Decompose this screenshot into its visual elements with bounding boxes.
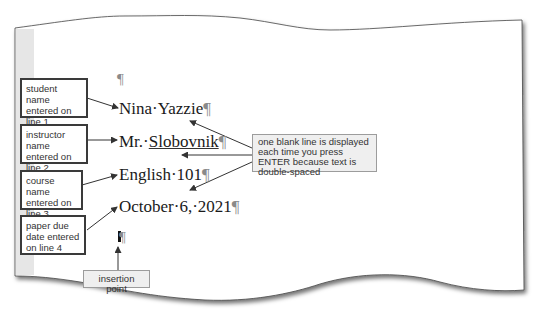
cursor-paragraph-mark: ¶ — [119, 230, 126, 245]
doc-line-1[interactable]: Nina·Yazzie¶ — [119, 100, 211, 117]
instructor-name-text: Slobovnik — [149, 132, 219, 151]
callout-instructor-name: instructor name entered on line 2 — [20, 124, 88, 164]
callout-due-date: paper due date entered on line 4 — [20, 215, 86, 255]
paragraph-mark: ¶ — [232, 197, 240, 216]
due-date-text: October·6,·2021 — [119, 197, 232, 216]
double-spaced-note-text: one blank line is displayed each time yo… — [258, 136, 369, 177]
insertion-point-label: insertion point — [83, 270, 150, 288]
callout-student-name: student name entered on line 1 — [20, 78, 88, 118]
callout-course-name: course name entered on line 3 — [20, 170, 83, 210]
course-name-text: English·101 — [119, 165, 202, 184]
blank-paragraph-mark: ¶ — [117, 72, 124, 87]
doc-line-4[interactable]: October·6,·2021¶ — [119, 198, 240, 215]
callout-due-date-text: paper due date entered on line 4 — [26, 220, 79, 253]
paragraph-mark: ¶ — [202, 165, 210, 184]
student-name-text: Nina·Yazzie — [119, 99, 203, 118]
doc-line-2[interactable]: Mr.·Slobovnik¶ — [119, 133, 226, 150]
instructor-prefix-text: Mr.· — [119, 132, 149, 151]
paragraph-mark: ¶ — [203, 99, 211, 118]
double-spaced-note: one blank line is displayed each time yo… — [252, 134, 377, 172]
doc-line-3[interactable]: English·101¶ — [119, 166, 210, 183]
paragraph-mark: ¶ — [219, 132, 227, 151]
